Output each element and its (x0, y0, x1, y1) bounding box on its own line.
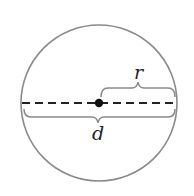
circle-diagram: r d (0, 0, 194, 196)
diameter-brace (24, 109, 175, 123)
radius-label: r (134, 61, 145, 83)
radius-brace (101, 82, 175, 97)
diameter-label: d (92, 122, 104, 144)
center-point (95, 99, 103, 107)
